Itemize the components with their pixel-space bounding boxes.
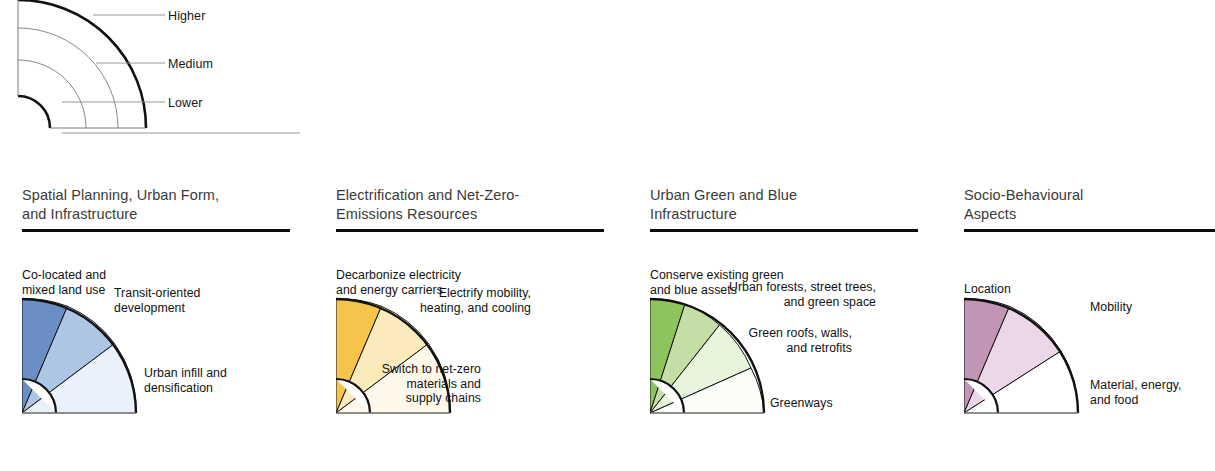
wedge-label-decarbonize-electricity: Decarbonize electricity and energy carri…: [336, 268, 461, 297]
legend-arc-diagram: [0, 0, 300, 140]
panel-rule: [650, 229, 918, 232]
panel-green-blue-infrastructure: Urban Green and Blue Infrastructure Urba…: [650, 186, 940, 471]
wedge-label-urban-infill: Urban infill and densification: [144, 366, 227, 395]
panel-rule: [22, 229, 290, 232]
legend-label-medium: Medium: [168, 57, 213, 71]
legend-arc-higher-medium: [18, 28, 118, 128]
panel-spatial-planning: Spatial Planning, Urban Form, and Infras…: [22, 186, 312, 471]
legend-label-lower: Lower: [168, 96, 203, 110]
wedge-label-greenways: Greenways: [770, 396, 833, 411]
priority-legend: Higher Medium Lower: [0, 0, 300, 140]
wedge-label-location: Location: [964, 282, 1011, 297]
panel-rule: [336, 229, 604, 232]
wedge-label-transit-oriented: Transit-oriented development: [114, 286, 200, 315]
legend-arc-outer: [18, 0, 146, 128]
figure-canvas: Higher Medium Lower Spatial Planning, Ur…: [0, 0, 1215, 471]
panel-quarter-donut: Mobility Material, energy, and food: [964, 244, 1215, 471]
panel-title: Socio-Behavioural Aspects: [964, 186, 1215, 227]
wedge-label-switch-net-zero: Switch to net-zero materials and supply …: [366, 362, 481, 406]
panel-electrification: Electrification and Net-Zero- Emissions …: [336, 186, 626, 471]
legend-label-higher: Higher: [168, 9, 205, 23]
wedge-label-mobility: Mobility: [1090, 300, 1132, 315]
panel-socio-behavioural: Socio-Behavioural Aspects Mobility Mater…: [964, 186, 1215, 471]
wedge-label-co-located: Co-located and mixed land use: [22, 268, 106, 297]
legend-arc-medium-lower: [18, 60, 86, 128]
panel-rule: [964, 229, 1215, 232]
wedge-diagram-socio: [964, 244, 1215, 471]
wedge-label-material-energy-food: Material, energy, and food: [1090, 378, 1182, 407]
wedge-label-green-roofs: Green roofs, walls, and retrofits: [696, 326, 852, 355]
panel-title: Urban Green and Blue Infrastructure: [650, 186, 940, 227]
legend-arc-inner: [18, 96, 50, 128]
panel-title: Electrification and Net-Zero- Emissions …: [336, 186, 626, 227]
wedge-label-conserve-existing: Conserve existing green and blue assets: [650, 268, 784, 297]
panel-title: Spatial Planning, Urban Form, and Infras…: [22, 186, 312, 227]
